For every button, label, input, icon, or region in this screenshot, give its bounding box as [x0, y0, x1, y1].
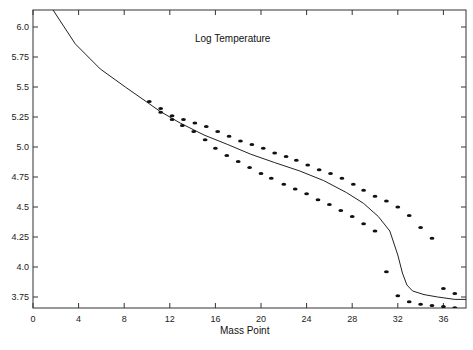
- data-point: [395, 206, 400, 209]
- data-point: [373, 230, 378, 233]
- data-point: [441, 305, 446, 308]
- data-point: [441, 287, 446, 290]
- chart: 3.754.04.254.54.755.05.255.55.756.0 0481…: [0, 0, 473, 350]
- data-point: [294, 159, 299, 162]
- y-tick-label: 3.75: [11, 292, 29, 302]
- data-point: [338, 209, 343, 212]
- data-point: [340, 177, 345, 180]
- data-point: [407, 300, 412, 303]
- data-point: [170, 114, 175, 117]
- lower-points: [158, 111, 457, 310]
- data-point: [227, 135, 232, 138]
- data-point: [327, 203, 332, 206]
- data-point: [170, 118, 175, 121]
- data-point: [236, 160, 241, 163]
- x-tick-label: 12: [165, 314, 175, 324]
- data-point: [261, 147, 266, 150]
- y-tick-label: 5.25: [11, 112, 29, 122]
- top-axis-ticks: [33, 10, 443, 15]
- data-point: [238, 140, 243, 143]
- data-point: [316, 198, 321, 201]
- plot-frame: [33, 10, 466, 308]
- data-point: [350, 215, 355, 218]
- x-tick-label: 16: [210, 314, 220, 324]
- data-point: [158, 107, 163, 110]
- data-point: [305, 164, 310, 167]
- model-curve: [52, 9, 466, 299]
- data-point: [249, 143, 254, 146]
- y-tick-label: 5.5: [16, 82, 29, 92]
- data-point: [418, 303, 423, 306]
- data-point: [293, 188, 298, 191]
- data-point: [203, 138, 208, 141]
- data-point: [272, 152, 277, 155]
- data-point: [213, 147, 218, 150]
- data-point: [204, 125, 209, 128]
- x-axis: 04812162024283236: [30, 303, 448, 324]
- x-tick-label: 0: [30, 314, 35, 324]
- x-tick-label: 32: [393, 314, 403, 324]
- x-tick-label: 20: [256, 314, 266, 324]
- x-tick-label: 36: [438, 314, 448, 324]
- data-point: [317, 168, 322, 171]
- data-point: [384, 200, 389, 203]
- y-tick-label: 4.5: [16, 202, 29, 212]
- data-point: [284, 155, 289, 158]
- data-point: [430, 237, 435, 240]
- x-tick-label: 24: [302, 314, 312, 324]
- data-point: [395, 294, 400, 297]
- data-point: [304, 192, 309, 195]
- y-tick-label: 4.0: [16, 262, 29, 272]
- data-point: [373, 195, 378, 198]
- x-tick-label: 4: [76, 314, 81, 324]
- y-tick-label: 6.0: [16, 22, 29, 32]
- data-point: [180, 124, 185, 127]
- data-point: [452, 292, 457, 295]
- data-point: [361, 189, 366, 192]
- data-point: [351, 183, 356, 186]
- data-point: [328, 172, 333, 175]
- data-point: [192, 122, 197, 125]
- chart-title: Log Temperature: [195, 33, 271, 44]
- data-point: [430, 304, 435, 307]
- y-tick-label: 4.75: [11, 172, 29, 182]
- data-point: [158, 111, 163, 114]
- data-point: [269, 177, 274, 180]
- data-point: [181, 118, 186, 121]
- data-point: [259, 172, 264, 175]
- data-point: [215, 130, 220, 133]
- data-point: [418, 226, 423, 229]
- data-point: [224, 154, 229, 157]
- data-point: [384, 270, 389, 273]
- y-axis: 3.754.04.254.54.755.05.255.55.756.0: [11, 22, 38, 302]
- data-point: [147, 100, 152, 103]
- data-point: [361, 222, 366, 225]
- data-point: [191, 130, 196, 133]
- data-point: [452, 306, 457, 309]
- data-point: [281, 183, 286, 186]
- x-axis-label: Mass Point: [220, 325, 270, 336]
- x-tick-label: 8: [122, 314, 127, 324]
- y-tick-label: 5.75: [11, 52, 29, 62]
- data-point: [247, 166, 252, 169]
- right-axis-ticks: [461, 27, 466, 297]
- y-tick-label: 4.25: [11, 232, 29, 242]
- y-tick-label: 5.0: [16, 142, 29, 152]
- data-point: [407, 214, 412, 217]
- x-tick-label: 28: [347, 314, 357, 324]
